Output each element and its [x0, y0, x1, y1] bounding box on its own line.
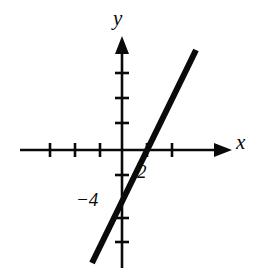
- y-intercept-label: −4: [76, 190, 98, 209]
- line-series: [92, 50, 196, 263]
- x-intercept-label: 2: [137, 162, 147, 181]
- x-axis-label: x: [236, 132, 245, 153]
- x-axis-arrowhead: [214, 143, 232, 157]
- graph-figure: y x 2 −4: [0, 0, 261, 275]
- y-axis-label: y: [113, 8, 122, 29]
- y-axis-arrowhead: [115, 36, 129, 54]
- coordinate-plane: [0, 0, 261, 275]
